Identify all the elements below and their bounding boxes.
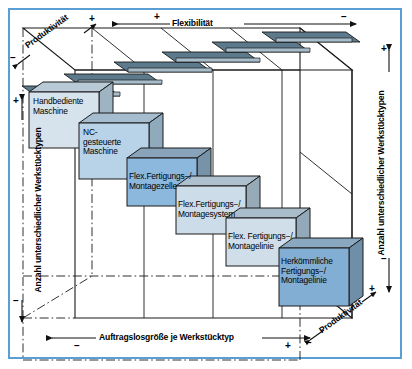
axis-bottom-minus: − <box>74 341 80 351</box>
block-label-flex-fertigungs-montagezelle: Flex.Fertigungs−/ Montagezelle <box>129 172 191 191</box>
axis-depth-topleft-plus: + <box>89 14 95 24</box>
axis-bottom-label: Auftragslosgröße je Werkstücktyp <box>99 332 234 342</box>
diagram-root: Flexibilität + − Auftragslosgröße je Wer… <box>0 0 412 369</box>
axis-right-minus: − <box>381 254 387 264</box>
block-label-flex-fertigungs-montagelinie: Flex. Fertigungs−/ Montagelinie <box>228 232 293 251</box>
axis-depth-bottomright-minus: − <box>306 338 312 348</box>
axis-right-label: Anzahl unterschiedlicher Werkstücktypen <box>376 83 386 263</box>
axis-left-plus: + <box>13 96 19 106</box>
axis-top-label: Flexibilität <box>172 18 213 28</box>
axis-right-plus: + <box>381 44 387 54</box>
block-label-handbediente-maschine: Handbediente Maschine <box>33 97 83 116</box>
axis-top-minus: − <box>341 12 347 22</box>
block-label-nc-gesteuerte-maschine: NC- gesteuerte Maschine <box>83 128 121 157</box>
axis-depth-bottomright-plus: + <box>369 284 375 294</box>
axis-top-plus: + <box>154 12 160 22</box>
axis-left-minus: − <box>13 296 19 306</box>
block-label-flex-fertigungs-montagesystem: Flex.Fertigungs−/ Montagesystem <box>178 200 240 219</box>
axis-bottom-plus: + <box>285 341 291 351</box>
block-label-herkoemmliche-fertigungs-montagelinie: Herkömmliche Fertigungs−/ Montagelinie <box>281 257 333 286</box>
axis-left-label: Anzahl unterschiedlicher Werkstücktypen <box>33 120 43 300</box>
axis-depth-topleft-minus: − <box>10 53 16 63</box>
